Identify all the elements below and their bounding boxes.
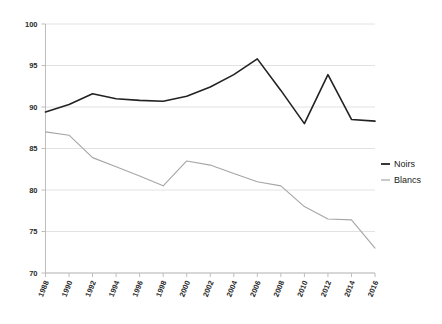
y-tick-label: 70 <box>29 269 37 278</box>
y-tick-label: 85 <box>29 144 37 153</box>
legend-label-noirs: Noirs <box>394 159 416 169</box>
line-chart: 100959085807570 198819901992199419961998… <box>0 0 442 324</box>
y-tick-label: 80 <box>29 186 37 195</box>
y-tick-label: 75 <box>29 227 37 236</box>
y-tick-label: 100 <box>25 20 38 29</box>
legend-label-blancs: Blancs <box>394 175 422 185</box>
y-tick-label: 95 <box>29 61 37 70</box>
chart-container: 100959085807570 198819901992199419961998… <box>0 0 442 324</box>
plot-background <box>0 0 442 324</box>
y-tick-label: 90 <box>29 103 37 112</box>
